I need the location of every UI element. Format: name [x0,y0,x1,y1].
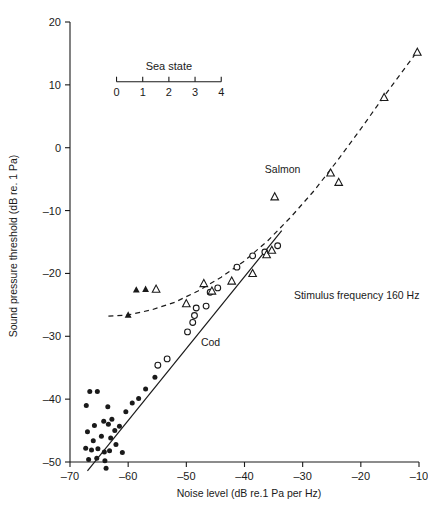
data-point-open-triangle [414,48,422,55]
data-point-open-triangle [380,93,388,100]
data-point-filled-circle [95,446,100,451]
data-point-filled-circle [152,375,157,380]
sea-state-title: Sea state [146,60,192,72]
data-points [83,48,421,471]
data-point-filled-circle [85,429,90,434]
data-point-open-triangle [268,246,276,253]
x-axis-title: Noise level (dB re.1 Pa per Hz) [177,487,322,499]
x-tick-label: –30 [293,470,311,482]
data-point-open-circle [190,320,196,326]
data-point-filled-circle [87,389,92,394]
y-tick-label: –40 [43,393,61,405]
annotation-label: Salmon [265,163,301,175]
data-point-filled-circle [99,434,104,439]
data-point-filled-circle [94,456,99,461]
sea-state-tick-label: 2 [166,86,172,98]
y-tick-label: –20 [43,267,61,279]
salmon-fit-curve [108,51,417,316]
data-point-filled-circle [92,423,97,428]
data-point-filled-circle [109,417,114,422]
x-tick-label: –20 [352,470,370,482]
data-point-open-circle [203,303,209,309]
x-tick-label: –40 [235,470,253,482]
data-point-filled-circle [89,448,94,453]
annotation-label: Cod [201,336,220,348]
y-axis: –50–40–30–20–1001020 [43,16,70,468]
data-point-open-circle [164,356,170,362]
data-point-filled-circle [104,466,109,471]
sea-state-tick-label: 3 [192,86,198,98]
data-point-open-circle [234,264,240,270]
data-point-filled-circle [83,446,88,451]
data-point-filled-circle [120,450,125,455]
y-tick-label: 10 [49,79,61,91]
data-point-filled-circle [105,404,110,409]
data-point-open-circle [185,329,191,335]
data-point-filled-circle [84,403,89,408]
data-point-open-triangle [200,280,208,287]
y-tick-label: 0 [55,142,61,154]
y-tick-label: –10 [43,205,61,217]
data-point-filled-circle [91,438,96,443]
data-point-filled-circle [102,449,107,454]
data-point-filled-circle [86,457,91,462]
scatter-plot: –50–40–30–20–1001020 –70–60–50–40–30–20–… [0,0,428,506]
data-point-filled-circle [117,424,122,429]
x-tick-label: –60 [119,470,137,482]
data-point-open-circle [193,305,199,311]
data-point-open-triangle [271,193,279,200]
sea-state-axis: 01234Sea state [113,60,224,98]
chart-annotations: SalmonCodStimulus frequency 160 Hz [201,163,420,348]
data-point-filled-circle [95,389,100,394]
data-point-filled-triangle [133,286,140,292]
sea-state-tick-label: 1 [140,86,146,98]
data-point-filled-circle [136,396,141,401]
sea-state-tick-label: 4 [218,86,224,98]
data-point-open-triangle [228,277,236,284]
data-point-open-triangle [152,285,160,292]
y-tick-label: 20 [49,16,61,28]
data-point-filled-circle [107,448,112,453]
data-point-filled-circle [108,436,113,441]
data-point-filled-circle [112,428,117,433]
data-point-filled-circle [123,409,128,414]
data-point-open-circle [155,362,161,368]
x-axis: –70–60–50–40–30–20–10 [61,462,428,482]
y-tick-label: –50 [43,456,61,468]
data-point-filled-circle [113,442,118,447]
data-point-open-triangle [183,300,191,307]
data-point-open-circle [275,243,281,249]
fit-lines [87,51,417,471]
data-point-open-circle [215,285,221,291]
annotation-label: Stimulus frequency 160 Hz [294,289,419,301]
data-point-filled-circle [130,400,135,405]
x-tick-label: –50 [177,470,195,482]
data-point-open-triangle [335,178,343,185]
y-axis-title: Sound pressure threshold (dB re. 1 Pa) [7,155,19,338]
data-point-filled-circle [101,419,106,424]
y-tick-label: –30 [43,330,61,342]
data-point-open-circle [192,313,198,319]
data-point-filled-circle [102,458,107,463]
x-tick-label: –70 [61,470,79,482]
data-point-filled-circle [106,422,111,427]
data-point-filled-triangle [142,286,149,293]
data-point-open-circle [250,253,256,259]
x-tick-label: –10 [410,470,428,482]
data-point-filled-circle [143,387,148,392]
figure-container: –50–40–30–20–1001020 –70–60–50–40–30–20–… [0,0,428,506]
cod-regression-line [87,231,281,471]
sea-state-tick-label: 0 [113,86,119,98]
